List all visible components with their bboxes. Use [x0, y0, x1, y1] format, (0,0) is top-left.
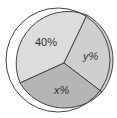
slice-label-y: y% [82, 50, 99, 62]
pie-chart: 40% y% x% [0, 0, 117, 118]
slice-label-x: x% [53, 84, 70, 96]
slice-label-40: 40% [35, 36, 57, 48]
